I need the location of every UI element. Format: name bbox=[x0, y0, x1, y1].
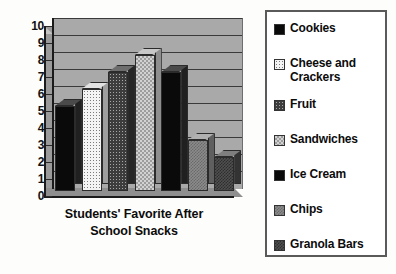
x-axis-baseline bbox=[44, 196, 234, 198]
legend-item-label: Granola Bars bbox=[290, 237, 364, 251]
bar-front-face bbox=[82, 89, 102, 191]
y-axis-tick-mark bbox=[46, 145, 52, 146]
bar-ice-cream bbox=[161, 72, 181, 191]
y-axis-tick-mark bbox=[46, 43, 52, 44]
bar-front-face bbox=[55, 106, 75, 191]
plot-area: 109876543210 bbox=[44, 18, 242, 200]
bar-sandwiches bbox=[135, 55, 155, 191]
legend-swatch-icon bbox=[274, 100, 285, 111]
chart-title-line-1: Students' Favorite After bbox=[30, 206, 238, 223]
legend-item-label: Sandwiches bbox=[290, 132, 358, 146]
bar-front-face bbox=[161, 72, 181, 191]
legend-item-sandwiches[interactable]: Sandwiches bbox=[274, 132, 385, 154]
legend-swatch-icon bbox=[274, 24, 285, 35]
y-axis-tick-label: 2 bbox=[38, 156, 44, 168]
y-axis-tick-label: 9 bbox=[38, 37, 44, 49]
bar-side-face bbox=[234, 150, 241, 184]
bar-series bbox=[54, 21, 240, 191]
y-axis-tick-mark bbox=[46, 60, 52, 61]
legend-item-label: Ice Cream bbox=[290, 167, 346, 181]
bar-chart-figure: 109876543210 Students' Favorite After Sc… bbox=[0, 0, 258, 274]
legend-swatch-icon bbox=[274, 170, 285, 181]
y-axis-tick-mark bbox=[46, 77, 52, 78]
legend-swatch-icon bbox=[274, 240, 285, 251]
bar-front-face bbox=[108, 72, 128, 191]
legend-item-granola-bars[interactable]: Granola Bars bbox=[274, 237, 385, 259]
y-axis-tick-mark bbox=[46, 162, 52, 163]
legend-item-chips[interactable]: Chips bbox=[274, 202, 385, 224]
legend-swatch-icon bbox=[274, 59, 285, 70]
legend-item-cheese-and-crackers[interactable]: Cheese and Crackers bbox=[274, 56, 385, 84]
gridline bbox=[52, 18, 242, 19]
legend-item-ice-cream[interactable]: Ice Cream bbox=[274, 167, 385, 189]
y-axis-tick-label: 3 bbox=[38, 139, 44, 151]
y-axis-tick-label: 8 bbox=[38, 54, 44, 66]
y-axis-tick-label: 0 bbox=[38, 190, 44, 202]
legend-swatch-icon bbox=[274, 205, 285, 216]
chart-title: Students' Favorite After School Snacks bbox=[30, 206, 238, 239]
bar-granola-bars bbox=[214, 157, 234, 191]
bar-cheese-and-crackers bbox=[82, 89, 102, 191]
y-axis-tick-mark bbox=[46, 196, 52, 197]
legend-item-cookies[interactable]: Cookies bbox=[274, 21, 385, 43]
y-axis-tick-label: 6 bbox=[38, 88, 44, 100]
chart-title-line-2: School Snacks bbox=[30, 223, 238, 240]
y-axis-tick-mark bbox=[46, 26, 52, 27]
legend-item-label: Chips bbox=[290, 202, 323, 216]
bar-fruit bbox=[108, 72, 128, 191]
legend-item-label: Cookies bbox=[290, 21, 336, 35]
legend-item-label: Cheese and Crackers bbox=[290, 56, 385, 84]
legend-item-label: Fruit bbox=[290, 97, 316, 111]
legend-swatch-icon bbox=[274, 135, 285, 146]
bar-front-face bbox=[214, 157, 234, 191]
bar-chips bbox=[188, 140, 208, 191]
y-axis-tick-label: 10 bbox=[31, 20, 44, 32]
chart-page: 109876543210 Students' Favorite After Sc… bbox=[0, 0, 396, 274]
y-axis-tick-mark bbox=[46, 94, 52, 95]
chart-legend: CookiesCheese and CrackersFruitSandwiche… bbox=[265, 10, 387, 257]
bar-front-face bbox=[135, 55, 155, 191]
y-axis-tick-label: 4 bbox=[38, 122, 44, 134]
legend-item-fruit[interactable]: Fruit bbox=[274, 97, 385, 119]
y-axis-tick-mark bbox=[46, 179, 52, 180]
y-axis-tick-mark bbox=[46, 128, 52, 129]
y-axis-tick-mark bbox=[46, 111, 52, 112]
y-axis-tick-label: 1 bbox=[38, 173, 44, 185]
y-axis-tick-label: 5 bbox=[38, 105, 44, 117]
bar-cookies bbox=[55, 106, 75, 191]
bar-front-face bbox=[188, 140, 208, 191]
y-axis-tick-label: 7 bbox=[38, 71, 44, 83]
